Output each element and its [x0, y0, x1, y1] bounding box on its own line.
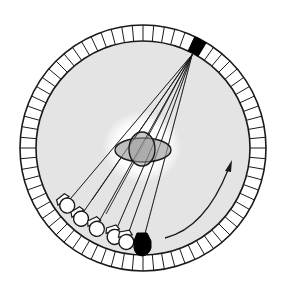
current-xray-source	[134, 233, 151, 256]
diagram-canvas	[0, 0, 283, 289]
ct-gantry-diagram	[0, 0, 283, 289]
